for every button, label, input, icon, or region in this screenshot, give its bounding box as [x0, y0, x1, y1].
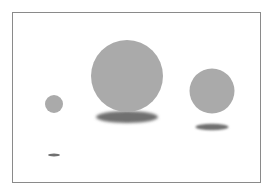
sphere-large [91, 40, 163, 112]
sphere-small [45, 95, 63, 113]
sphere-medium [190, 69, 235, 114]
diagram-scene [0, 0, 270, 196]
shadow-small [48, 154, 60, 157]
shadow-large [96, 111, 158, 123]
shadow-medium [196, 124, 229, 130]
